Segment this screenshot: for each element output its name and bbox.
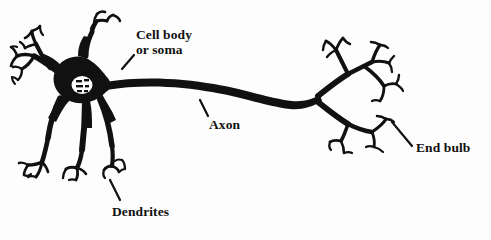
axon-terminal-arbor <box>318 38 403 153</box>
dendrite-lower-center <box>63 102 86 180</box>
label-cell-body: Cell bodyor soma <box>136 27 192 57</box>
axon-shape <box>105 78 322 109</box>
dendrite-lower-right <box>100 100 125 178</box>
dendrite-upper-left <box>11 26 58 84</box>
leader-line-end-bulb <box>392 122 412 146</box>
dendrite-top <box>86 12 120 56</box>
dendrite-lower-left <box>19 98 60 177</box>
label-end-bulb: End bulb <box>416 140 470 155</box>
neuron-diagram: Cell bodyor soma Axon End bulb Dendrites <box>0 0 491 240</box>
neuron-illustration <box>0 0 491 240</box>
label-cell-body-line1: Cell body <box>136 27 192 42</box>
label-cell-body-line2: or soma <box>136 42 183 57</box>
leader-line-cell-body <box>122 55 134 69</box>
label-axon: Axon <box>209 117 240 132</box>
label-dendrites: Dendrites <box>112 204 169 219</box>
leader-line-axon <box>200 100 208 116</box>
leader-line-dendrites <box>110 180 120 200</box>
nucleus-icon <box>72 76 93 94</box>
